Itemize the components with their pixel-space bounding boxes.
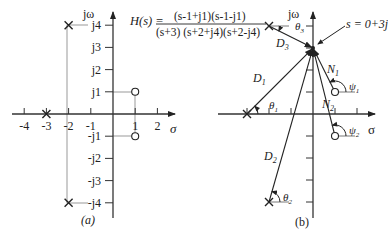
sigma-axis-label: σ bbox=[170, 121, 177, 136]
test-point-label: s = 0+3j bbox=[346, 17, 388, 31]
caption-a: (a) bbox=[81, 213, 95, 227]
figure-b: jω σ s = 0+3j D3 θ3 D1 θ1 D2 θ2 N1 ψ1 N2… bbox=[218, 7, 388, 229]
label-d1: D1 bbox=[252, 71, 266, 87]
jw-axis-label: jω bbox=[82, 7, 94, 21]
y-tick-label: j2 bbox=[91, 63, 101, 77]
test-point-pointer bbox=[318, 26, 345, 44]
vector-d1-angle-arc bbox=[255, 106, 258, 114]
zero-marker bbox=[132, 88, 139, 95]
pole-zero-diagram: -4-3-2-112 j4j3j2j1-j1-j2-j3-j4 jω σ (a)… bbox=[0, 0, 388, 238]
vector-d3-angle-arc bbox=[279, 26, 280, 31]
zero-marker bbox=[332, 133, 339, 140]
caption-b: (b) bbox=[295, 215, 309, 229]
test-point-marker bbox=[311, 46, 315, 50]
zero-marker bbox=[132, 133, 139, 140]
x-tick-label: -3 bbox=[41, 119, 51, 133]
figure-a: -4-3-2-112 j4j3j2j1-j1-j2-j3-j4 jω σ (a) bbox=[12, 7, 177, 227]
label-d3: D3 bbox=[275, 36, 289, 52]
sigma-axis-label-b: σ bbox=[368, 122, 375, 137]
label-d2: D2 bbox=[263, 149, 277, 165]
transfer-function: H(s) = (s-1+j1)(s-1-j1) (s+3) (s+2+j4)(s… bbox=[129, 10, 266, 39]
x-tick-label: -4 bbox=[19, 119, 29, 133]
label-psi2: ψ2 bbox=[349, 124, 360, 139]
label-theta1: θ1 bbox=[269, 99, 278, 114]
tf-denominator: (s+3) (s+2+j4)(s+2-j4) bbox=[156, 26, 260, 39]
x-tick-label: 1 bbox=[132, 119, 138, 133]
jw-axis-label-b: jω bbox=[287, 7, 299, 21]
y-tick-label: -j3 bbox=[88, 174, 101, 188]
x-tick-label: -2 bbox=[64, 119, 74, 133]
label-n2: N2 bbox=[321, 97, 334, 113]
y-tick-label: -j4 bbox=[88, 196, 101, 210]
label-theta3: θ3 bbox=[295, 20, 304, 35]
y-tick-label: -j1 bbox=[88, 129, 101, 143]
label-psi1: ψ1 bbox=[349, 80, 359, 95]
label-n1: N1 bbox=[326, 62, 339, 78]
tf-numerator: (s-1+j1)(s-1-j1) bbox=[174, 10, 246, 23]
zero-marker bbox=[332, 89, 339, 96]
y-tick-label: j3 bbox=[91, 40, 101, 54]
vector-d2-angle-arc bbox=[272, 191, 280, 202]
y-tick-label: -j2 bbox=[88, 151, 101, 165]
x-tick-label: 2 bbox=[154, 119, 160, 133]
vector-d2 bbox=[269, 49, 313, 202]
label-theta2: θ2 bbox=[283, 191, 292, 206]
y-tick-label: j1 bbox=[91, 85, 101, 99]
